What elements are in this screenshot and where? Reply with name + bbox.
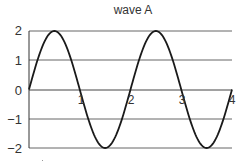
x-tick-label: 3 — [179, 93, 186, 107]
y-tick-labels: 2 1 0 −1 −2 — [7, 23, 22, 156]
x-tick-label: 2 — [128, 93, 135, 107]
chart-title: wave A — [113, 3, 153, 17]
y-tick-label: 2 — [15, 23, 22, 38]
x-tick-label: 1 — [78, 93, 85, 107]
y-tick-label: −1 — [7, 112, 22, 127]
x-tick-label: 4 — [229, 93, 236, 107]
y-tick-label: 0 — [15, 83, 22, 98]
y-tick-label: 1 — [15, 53, 22, 68]
x-tick-labels: 1 2 3 4 — [78, 93, 236, 107]
stray-dot — [42, 160, 43, 161]
y-tick-label: −2 — [7, 141, 22, 156]
wave-chart: wave A 2 1 0 −1 −2 1 2 3 4 — [0, 0, 246, 166]
